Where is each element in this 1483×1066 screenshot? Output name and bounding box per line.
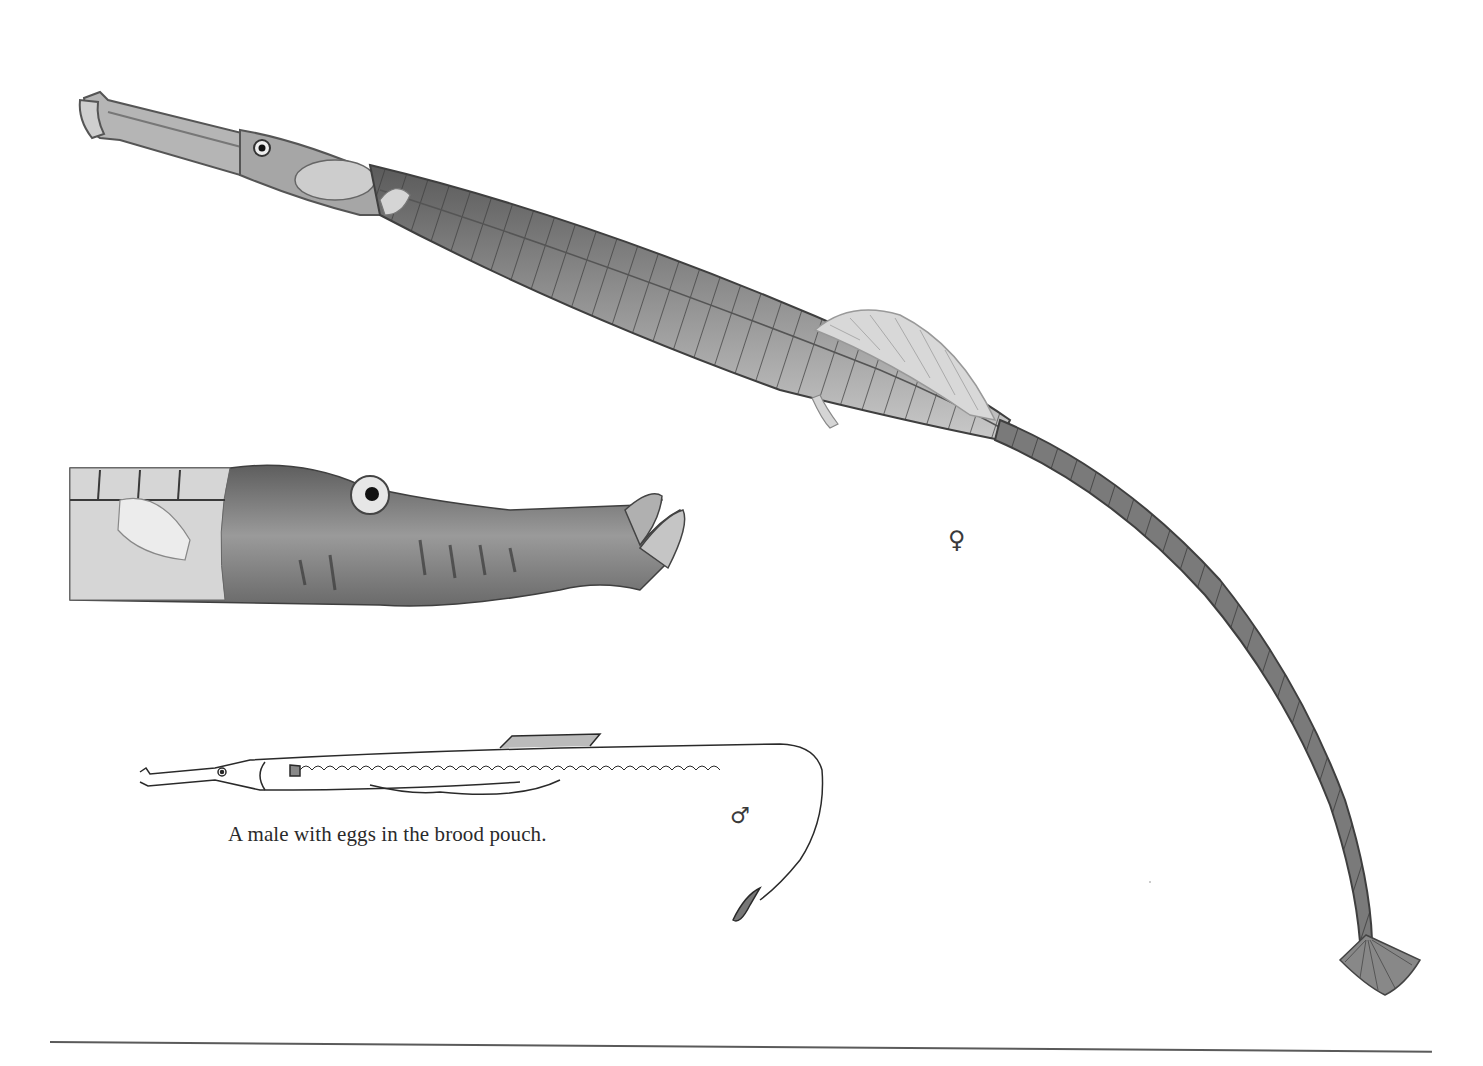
figure-caption: A male with eggs in the brood pouch. xyxy=(228,822,547,847)
female-symbol-icon: ♀ xyxy=(948,528,966,552)
pipefish-plate xyxy=(0,0,1483,1066)
head-detail-figure xyxy=(70,465,685,606)
speck xyxy=(1149,881,1151,883)
male-symbol-icon: ♂ xyxy=(730,805,750,827)
